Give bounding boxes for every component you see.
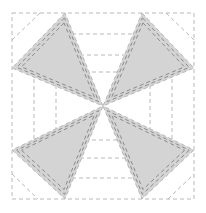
guide-line <box>12 174 38 199</box>
guide-line <box>168 174 194 199</box>
triangle-bottom-left <box>12 106 103 199</box>
triangle-top-left <box>12 13 103 106</box>
guide-line <box>166 13 194 40</box>
quilt-block-svg <box>0 0 206 213</box>
triangle-bottom-right <box>103 106 194 199</box>
quilt-diagram <box>0 0 206 213</box>
triangle-top-right <box>103 13 194 106</box>
guide-line <box>12 13 40 40</box>
